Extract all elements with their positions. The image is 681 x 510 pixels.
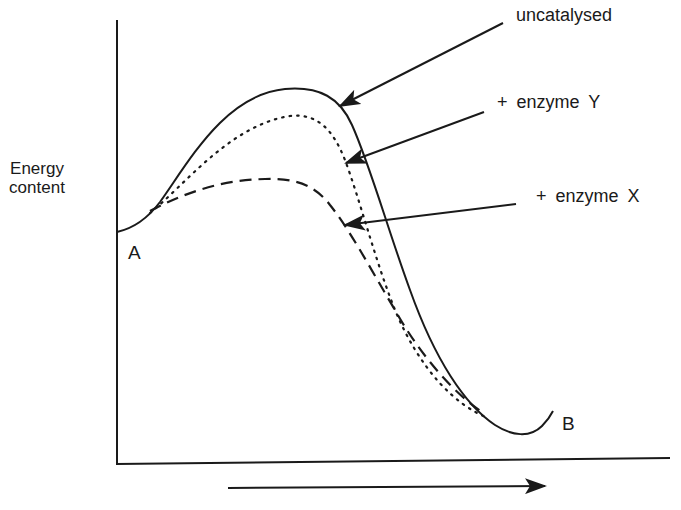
x-axis (116, 458, 670, 464)
arrow-enzyme-x (345, 204, 516, 225)
y-axis-label-line2: content (4, 178, 70, 197)
energy-profile-diagram: Energy content A B uncatalysed + enzyme … (0, 0, 681, 510)
curves (117, 89, 553, 435)
annotation-uncatalysed: uncatalysed (516, 6, 612, 24)
arrow-uncatalysed (340, 23, 503, 106)
point-b-label: B (562, 414, 575, 433)
annotation-enzyme-x: + enzyme X (536, 187, 640, 205)
reaction-progress-arrow (228, 486, 545, 488)
curve-enzyme-y (150, 116, 488, 418)
diagram-canvas (0, 0, 681, 510)
annotation-enzyme-y: + enzyme Y (497, 93, 600, 111)
y-axis-label: Energy content (4, 159, 70, 197)
curve-uncatalysed (117, 89, 553, 435)
y-axis-label-line1: Energy (4, 159, 70, 178)
arrow-enzyme-y (346, 112, 484, 163)
point-a-label: A (128, 243, 141, 262)
annotation-arrows (340, 23, 516, 225)
